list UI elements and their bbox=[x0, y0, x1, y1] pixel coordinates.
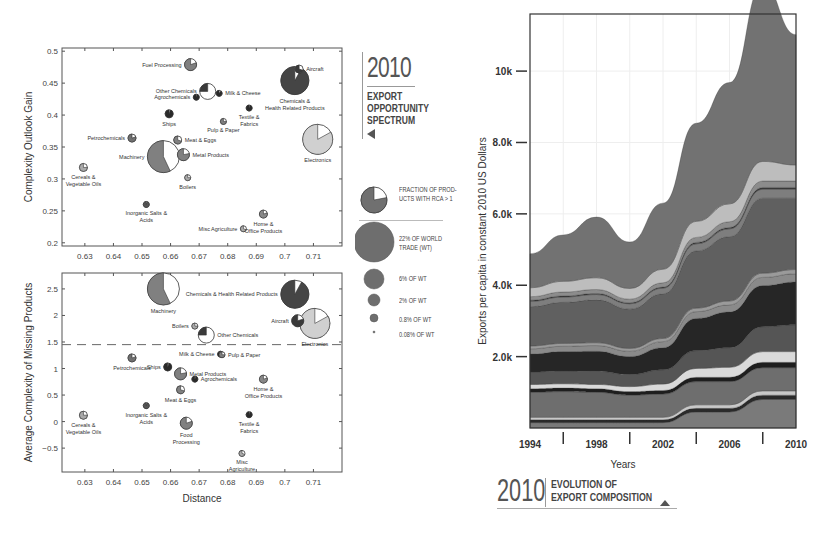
x-tick-label: 0.69 bbox=[248, 478, 264, 487]
bubble-electronics[interactable] bbox=[300, 308, 330, 338]
bubble-label: Chemicals & Health Related Products bbox=[186, 291, 278, 297]
x-tick-label: 0.69 bbox=[248, 252, 264, 261]
bubble-label: Fuel Processing bbox=[142, 62, 181, 68]
y-axis-label: Exports per capita in constant 2010 US D… bbox=[477, 137, 488, 344]
bubble-label: Ships bbox=[162, 121, 176, 127]
bubble-meat-eggs[interactable] bbox=[177, 386, 185, 394]
bubble-fuel-processing[interactable] bbox=[185, 59, 197, 71]
bubble-label: Office Products bbox=[245, 228, 283, 234]
y-tick-label: 0.2 bbox=[47, 239, 59, 248]
y-tick-label: 0.5 bbox=[47, 391, 59, 400]
y-tick-label: 6.0k bbox=[493, 209, 513, 220]
title-line-3: SPECTRUM bbox=[367, 114, 410, 126]
bubble-aircraft[interactable] bbox=[295, 65, 303, 73]
bubble-petrochemicals[interactable] bbox=[128, 134, 136, 142]
x-tick-label: 0.63 bbox=[77, 252, 93, 261]
bubble-agrochemicals[interactable] bbox=[192, 376, 198, 382]
up-arrow-icon[interactable] bbox=[660, 500, 670, 506]
bubble-label: Cereals & bbox=[71, 174, 95, 180]
bubble-label: Agrochemicals bbox=[201, 376, 237, 382]
bubble-metal-products[interactable] bbox=[175, 368, 187, 380]
x-tick-label: 0.63 bbox=[77, 478, 93, 487]
bubble-other-chemicals[interactable] bbox=[198, 327, 214, 343]
y-axis-label: Average Complexity of Missing Products bbox=[23, 283, 34, 462]
bubble-textile-fabrics[interactable] bbox=[246, 412, 252, 418]
x-tick-label: 0.67 bbox=[191, 252, 207, 261]
bubble-label: Agrochemicals bbox=[154, 94, 190, 100]
bubble-inorganic-salts-acids[interactable] bbox=[143, 403, 149, 409]
bubble-other-chemicals[interactable] bbox=[200, 83, 216, 99]
legend-size-label-3: 0.8% OF WT bbox=[399, 315, 431, 324]
bubble-label: Electronics bbox=[301, 341, 328, 347]
bubble-metal-products[interactable] bbox=[177, 149, 189, 161]
bubble-ships[interactable] bbox=[165, 110, 173, 118]
title-divider bbox=[367, 86, 415, 87]
bubble-chemicals-health-related-products[interactable] bbox=[281, 280, 309, 308]
y-axis-label: Complexity Outlook Gain bbox=[23, 92, 34, 203]
bubble-petrochemicals[interactable] bbox=[128, 354, 136, 362]
bubble-label: Fabrics bbox=[240, 121, 258, 127]
bubble-label: Machinery bbox=[151, 308, 177, 314]
bubble-pulp-paper[interactable] bbox=[219, 352, 225, 358]
legend-size-circle bbox=[355, 222, 394, 262]
x-tick-label: 0.68 bbox=[220, 252, 236, 261]
bubble-meat-eggs[interactable] bbox=[174, 136, 182, 144]
legend-size-label-0: 22% OF WORLD TRADE (WT) bbox=[399, 234, 442, 252]
bubble-label: Aircraft bbox=[306, 66, 324, 72]
y-tick-label: 2.5 bbox=[47, 285, 59, 294]
x-tick-label: 2002 bbox=[652, 439, 675, 450]
bubble-food-processing[interactable] bbox=[180, 417, 192, 429]
bubble-label: Agriculture bbox=[229, 466, 255, 472]
left-arrow-icon[interactable] bbox=[367, 129, 375, 139]
missing-products-chart: 0.630.640.650.660.670.680.690.70.71−0.50… bbox=[0, 262, 360, 512]
legend-size-circle bbox=[373, 331, 375, 333]
bubble-misc-agriculture[interactable] bbox=[239, 450, 245, 456]
x-tick-label: 2010 bbox=[785, 439, 808, 450]
y-tick-label: 8.0k bbox=[493, 137, 513, 148]
title-line-2: EXPORT COMPOSITION bbox=[551, 491, 652, 503]
x-tick-label: 0.66 bbox=[163, 252, 179, 261]
legend-size-line: TRADE (WT) bbox=[399, 243, 442, 252]
legend-size-label-4: 0.08% OF WT bbox=[399, 330, 434, 339]
x-axis-label: Years bbox=[610, 459, 635, 470]
x-tick-label: 0.66 bbox=[163, 478, 179, 487]
bubble-boilers[interactable] bbox=[192, 323, 198, 329]
x-tick-label: 0.71 bbox=[306, 478, 322, 487]
bubble-cereals-vegetable-oils[interactable] bbox=[79, 411, 87, 419]
bubble-label: Acids bbox=[140, 217, 154, 223]
bubble-boilers[interactable] bbox=[185, 175, 191, 181]
x-tick-label: 2006 bbox=[718, 439, 741, 450]
bubble-agrochemicals[interactable] bbox=[193, 94, 199, 100]
bubble-aircraft[interactable] bbox=[292, 315, 304, 327]
bubble-electronics[interactable] bbox=[303, 124, 333, 154]
bubble-label: Health Related Products bbox=[265, 105, 325, 111]
y-tick-label: −0.5 bbox=[42, 444, 58, 453]
bubble-label: Home & bbox=[253, 221, 273, 227]
bubble-home-office-products[interactable] bbox=[259, 375, 267, 383]
bubble-home-office-products[interactable] bbox=[259, 210, 267, 218]
bubble-cereals-vegetable-oils[interactable] bbox=[79, 163, 87, 171]
bubble-label: Acids bbox=[140, 419, 154, 425]
bubble-inorganic-salts-acids[interactable] bbox=[143, 201, 149, 207]
title-line-2: OPPORTUNITY bbox=[367, 102, 410, 114]
x-tick-label: 0.64 bbox=[106, 478, 122, 487]
legend-size-line: 22% OF WORLD bbox=[399, 234, 442, 243]
export-composition-chart: 2.0k4.0k6.0k8.0k10k19941998200220062010Y… bbox=[470, 0, 832, 476]
bubble-label: Milk & Cheese bbox=[179, 351, 214, 357]
bubble-label: Office Products bbox=[245, 393, 283, 399]
legend-divider bbox=[359, 220, 443, 221]
bubble-pulp-paper[interactable] bbox=[220, 118, 226, 124]
bubble-chemicals-health-related-products[interactable] bbox=[281, 67, 309, 95]
bubble-ships[interactable] bbox=[164, 363, 172, 371]
bubble-milk-cheese[interactable] bbox=[216, 90, 222, 96]
title-line-1: EVOLUTION OF bbox=[551, 478, 617, 490]
legend-size-label-1: 6% OF WT bbox=[399, 274, 427, 283]
bubble-machinery[interactable] bbox=[147, 273, 179, 305]
bubble-machinery[interactable] bbox=[147, 141, 179, 173]
legend-size-circle bbox=[368, 294, 380, 306]
legend-fraction-pie[interactable] bbox=[361, 187, 387, 213]
bubble-label: Inorganic Salts & bbox=[125, 412, 167, 418]
legend-fraction-line-1: FRACTION OF PROD- bbox=[399, 185, 457, 194]
bubble-textile-fabrics[interactable] bbox=[246, 105, 252, 111]
x-tick-label: 0.64 bbox=[106, 252, 122, 261]
